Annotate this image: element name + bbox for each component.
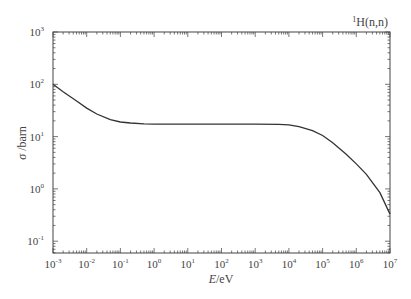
- y-tick-label: 100: [30, 182, 45, 195]
- x-tick-label: 103: [248, 257, 263, 270]
- x-tick-label: 107: [383, 257, 398, 270]
- x-tick-label: 101: [181, 257, 196, 270]
- x-tick-label: 10-3: [45, 257, 62, 270]
- x-tick-label: 104: [282, 257, 297, 270]
- chart-title: 1H(n,n): [352, 15, 388, 29]
- x-tick-label: 100: [147, 257, 162, 270]
- x-tick-label: 106: [349, 257, 364, 270]
- data-series-line: [53, 84, 390, 214]
- x-axis-label-unit: /eV: [216, 272, 234, 286]
- x-tick-labels: 10-310-210-1100101102103104105106107: [45, 257, 398, 270]
- x-tick-label: 105: [315, 257, 330, 270]
- plot-frame: [53, 32, 390, 253]
- title-main: H(n,n): [356, 15, 388, 29]
- y-tick-label: 10-1: [27, 234, 44, 247]
- axis-ticks: [53, 32, 390, 253]
- x-tick-label: 10-1: [112, 257, 129, 270]
- x-tick-label: 10-2: [78, 257, 95, 270]
- y-tick-label: 103: [30, 25, 45, 38]
- y-tick-label: 101: [30, 130, 45, 143]
- y-tick-label: 102: [30, 77, 45, 90]
- cross-section-chart: 10-310-210-1100101102103104105106107 10-…: [0, 0, 411, 299]
- x-axis-label: E/eV: [208, 272, 234, 286]
- x-tick-label: 102: [214, 257, 229, 270]
- y-axis-label: σ /barn: [15, 126, 29, 160]
- y-axis-label-unit: /barn: [15, 126, 29, 154]
- y-tick-labels: 10-1100101102103: [27, 25, 44, 247]
